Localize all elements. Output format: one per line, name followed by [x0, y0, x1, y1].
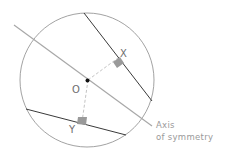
chord-y	[26, 109, 126, 135]
center-point	[86, 79, 90, 83]
label-o: O	[72, 84, 80, 95]
perpendicular-to-x	[88, 58, 118, 80]
right-angle-marker-y	[77, 117, 87, 125]
axis-label-line2: of symmetry	[156, 132, 213, 142]
label-x: X	[120, 48, 127, 59]
chord-x	[84, 13, 152, 101]
geometry-figure	[0, 0, 226, 151]
label-y: Y	[69, 124, 75, 135]
axis-label-line1: Axis	[156, 120, 175, 130]
perpendicular-to-y	[82, 80, 88, 122]
